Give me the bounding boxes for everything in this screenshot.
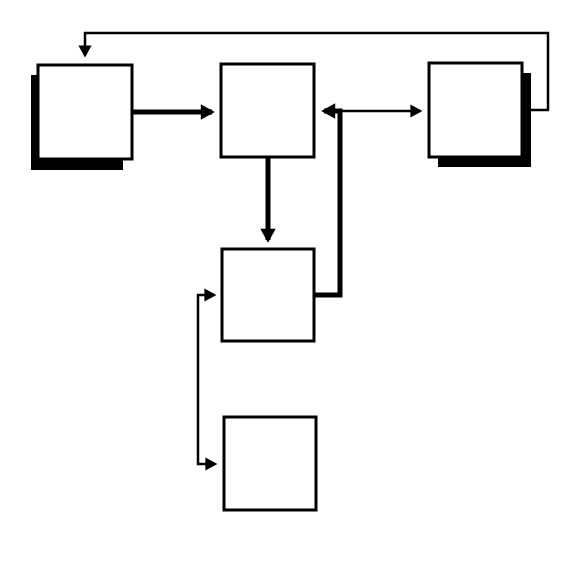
box-2[interactable] — [221, 64, 314, 157]
arrowhead-icon — [205, 457, 217, 470]
arrowhead-icon — [260, 229, 275, 243]
boxes — [38, 63, 522, 510]
connector-box2-to-box4 — [260, 157, 275, 243]
box-5[interactable] — [224, 417, 316, 510]
connector-box4-box5-bidirectional — [198, 288, 217, 470]
connector-line — [198, 295, 215, 464]
arrowhead-icon — [204, 288, 216, 301]
connector-box2-box3-bidirectional — [340, 104, 422, 117]
block-diagram — [0, 0, 581, 568]
arrowhead-icon — [201, 104, 215, 119]
connector-line — [314, 111, 340, 295]
box-4[interactable] — [222, 249, 314, 341]
connector-box1-to-box2 — [132, 104, 215, 119]
arrowhead-icon — [78, 45, 91, 57]
connector-box4-to-box2 — [314, 103, 340, 295]
arrowhead-icon — [410, 104, 422, 117]
box-3[interactable] — [429, 63, 522, 157]
arrowhead-icon — [321, 103, 335, 118]
box-1[interactable] — [38, 65, 132, 159]
